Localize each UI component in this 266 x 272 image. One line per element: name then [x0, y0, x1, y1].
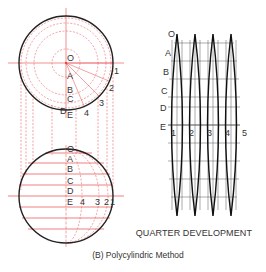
dev-label-2: 2	[189, 128, 194, 138]
label-O: O	[67, 53, 74, 63]
label-D: D	[60, 106, 67, 116]
dev-label-O: O	[168, 29, 175, 39]
label-A: A	[67, 154, 73, 164]
label-2: 2	[109, 83, 114, 93]
development: O A B C D E 1 2 3 4 5	[160, 29, 247, 216]
dev-label-C: C	[161, 86, 168, 96]
dev-label-4: 4	[225, 128, 230, 138]
gore-grid-horizontal	[168, 43, 240, 197]
label-C: C	[67, 94, 74, 104]
label-1: 1	[110, 197, 115, 207]
figure-caption: (B) Polycylindric Method	[0, 250, 266, 260]
development-caption: QUARTER DEVELOPMENT	[0, 228, 266, 238]
label-4: 4	[84, 108, 89, 118]
label-3: 3	[95, 197, 100, 207]
label-E: E	[67, 197, 73, 207]
dev-label-5: 5	[242, 128, 247, 138]
dev-label-A: A	[165, 48, 171, 58]
dev-label-3: 3	[207, 128, 212, 138]
label-D: D	[67, 186, 74, 196]
label-1: 1	[114, 66, 119, 76]
label-2: 2	[104, 197, 109, 207]
dev-label-B: B	[163, 67, 169, 77]
label-E: E	[67, 110, 73, 120]
label-A: A	[67, 71, 73, 81]
label-3: 3	[99, 98, 104, 108]
label-C: C	[67, 176, 74, 186]
dev-label-1: 1	[171, 128, 176, 138]
label-B: B	[67, 164, 73, 174]
dev-label-D: D	[160, 103, 167, 113]
label-4: 4	[80, 197, 85, 207]
dev-label-E: E	[160, 122, 166, 132]
label-O: O	[67, 144, 74, 154]
